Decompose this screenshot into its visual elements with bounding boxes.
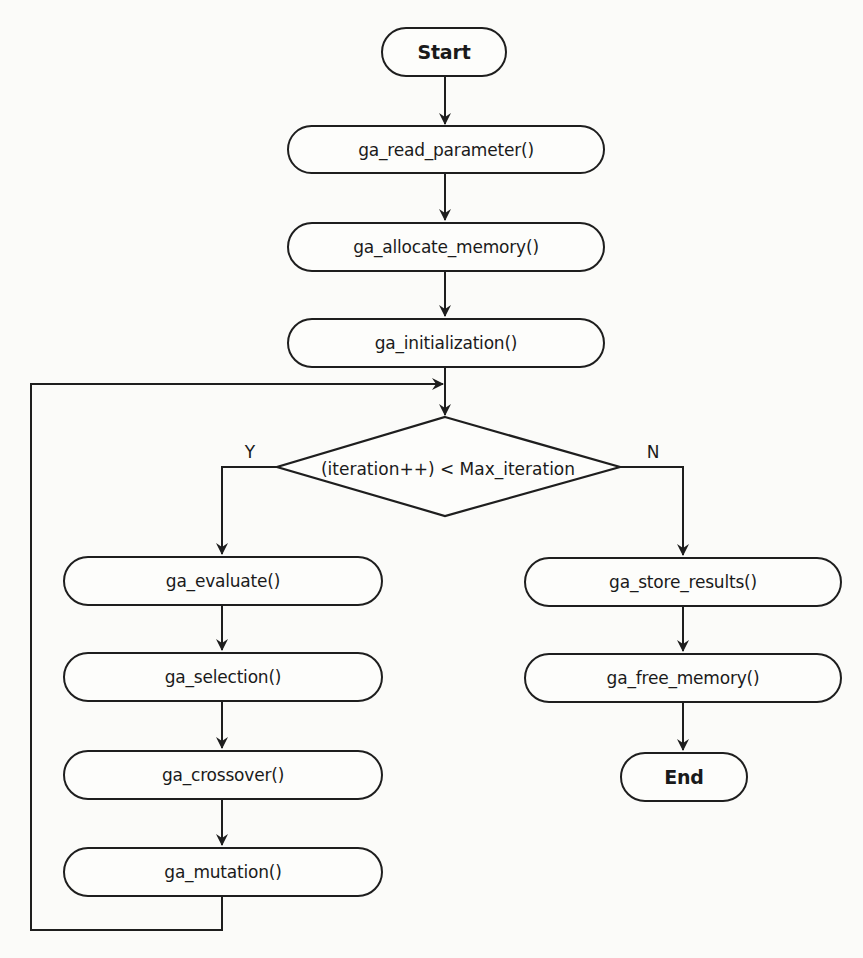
free-memory-label: ga_free_memory() — [607, 668, 760, 688]
allocate-memory-label: ga_allocate_memory() — [353, 237, 539, 257]
end-node: End — [620, 752, 748, 802]
evaluate-label: ga_evaluate() — [166, 571, 280, 591]
crossover-node: ga_crossover() — [63, 750, 383, 800]
store-results-label: ga_store_results() — [609, 572, 757, 592]
mutation-node: ga_mutation() — [63, 847, 383, 897]
evaluate-node: ga_evaluate() — [63, 556, 383, 606]
store-results-node: ga_store_results() — [524, 557, 842, 607]
mutation-label: ga_mutation() — [164, 862, 281, 882]
crossover-label: ga_crossover() — [162, 765, 284, 785]
selection-label: ga_selection() — [165, 667, 282, 687]
free-memory-node: ga_free_memory() — [524, 653, 842, 703]
selection-node: ga_selection() — [63, 652, 383, 702]
no-branch-label: N — [647, 442, 660, 462]
yes-branch-label: Y — [245, 442, 255, 462]
edge-decision-store — [620, 467, 683, 555]
read-parameter-node: ga_read_parameter() — [287, 125, 605, 174]
start-label: Start — [417, 41, 470, 63]
initialization-label: ga_initialization() — [375, 333, 518, 353]
read-parameter-label: ga_read_parameter() — [358, 140, 534, 160]
flowchart: Start ga_read_parameter() ga_allocate_me… — [0, 0, 863, 958]
decision-label: (iteration++) < Max_iteration — [321, 459, 575, 479]
start-node: Start — [381, 27, 507, 77]
edge-decision-evaluate — [222, 467, 277, 554]
allocate-memory-node: ga_allocate_memory() — [287, 222, 605, 272]
end-label: End — [664, 766, 704, 788]
initialization-node: ga_initialization() — [287, 318, 605, 368]
